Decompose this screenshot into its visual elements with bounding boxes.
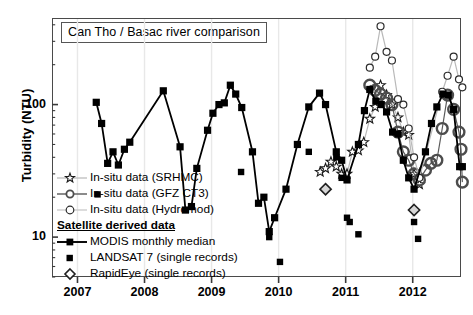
legend-section-header: Satellite derived data xyxy=(57,218,238,234)
legend-item-label: In-situ data (SRHMC) xyxy=(87,172,203,184)
y-axis-label: Turbidity (NTU) xyxy=(19,66,34,206)
y-tick-label: 100 xyxy=(12,97,46,111)
legend-item: RapidEye (single records) xyxy=(57,266,238,282)
legend-item-label: RapidEye (single records) xyxy=(87,268,226,280)
legend-item: MODIS monthly median xyxy=(57,234,238,250)
circle-gray-key-icon xyxy=(57,186,87,202)
chart-figure: Can Tho / Basac river comparison Turbidi… xyxy=(0,0,473,315)
x-tick-label: 2008 xyxy=(120,285,170,299)
legend-item: In-situ data (Hydromod) xyxy=(57,202,238,218)
x-tick-label: 2009 xyxy=(187,285,237,299)
x-tick-label: 2007 xyxy=(52,285,102,299)
chart-title: Can Tho / Basac river comparison xyxy=(61,22,267,43)
chart-legend: In-situ data (SRHMC)In-situ data (GFZ CT… xyxy=(57,170,238,282)
legend-item-label: MODIS monthly median xyxy=(87,236,215,248)
circle-open-key-icon xyxy=(57,202,87,218)
legend-item-label: LANDSAT 7 (single records) xyxy=(87,252,238,264)
square-line-key-icon xyxy=(57,234,87,250)
x-tick-label: 2010 xyxy=(254,285,304,299)
square-key-icon xyxy=(57,250,87,266)
x-tick-label: 2011 xyxy=(321,285,371,299)
legend-item: In-situ data (SRHMC) xyxy=(57,170,238,186)
star-key-icon xyxy=(57,170,87,186)
diamond-key-icon xyxy=(57,266,87,282)
legend-item: In-situ data (GFZ CT3) xyxy=(57,186,238,202)
legend-item: LANDSAT 7 (single records) xyxy=(57,250,238,266)
y-tick-label: 10 xyxy=(12,229,46,243)
x-tick-label: 2012 xyxy=(388,285,438,299)
legend-item-label: In-situ data (Hydromod) xyxy=(87,204,214,216)
legend-item-label: In-situ data (GFZ CT3) xyxy=(87,188,209,200)
